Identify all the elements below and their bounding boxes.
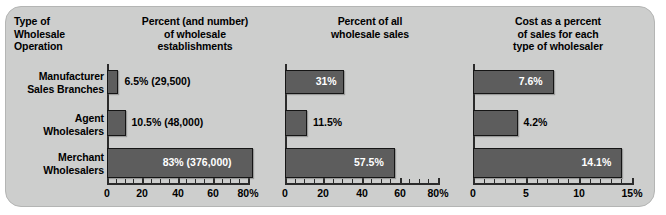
- x-axis-tick-label: 10: [573, 187, 585, 199]
- x-axis-tick: [632, 178, 634, 183]
- x-axis-minor-tick: [537, 179, 538, 183]
- bar-value-label: 7.6%: [519, 75, 543, 87]
- x-axis-minor-tick: [590, 179, 591, 183]
- x-axis-minor-tick: [484, 179, 485, 183]
- x-axis-tick: [473, 178, 475, 183]
- x-axis-minor-tick: [621, 179, 622, 183]
- bar-value-label: 14.1%: [581, 156, 611, 168]
- x-axis-minor-tick: [515, 179, 516, 183]
- bar: [473, 110, 518, 136]
- x-axis-tick-label: 5: [523, 187, 529, 199]
- x-axis-tick: [526, 178, 528, 183]
- x-axis-minor-tick: [494, 179, 495, 183]
- wholesale-operations-chart-figure: Type of Wholesale Operation Percent (and…: [0, 0, 666, 215]
- x-axis-tick-label: 0: [470, 187, 476, 199]
- x-axis-minor-tick: [611, 179, 612, 183]
- x-axis-minor-tick: [600, 179, 601, 183]
- x-axis-tick: [579, 178, 581, 183]
- x-axis-minor-tick: [568, 179, 569, 183]
- x-axis-line: [473, 183, 634, 185]
- bar-value-label: 4.2%: [524, 116, 548, 128]
- x-axis-tick-label: 15%: [621, 187, 642, 199]
- x-axis-minor-tick: [547, 179, 548, 183]
- x-axis-minor-tick: [505, 179, 506, 183]
- x-axis-minor-tick: [558, 179, 559, 183]
- bar-chart-cost-as-percent-of-sales: 051015%7.6%4.2%14.1%: [0, 0, 666, 215]
